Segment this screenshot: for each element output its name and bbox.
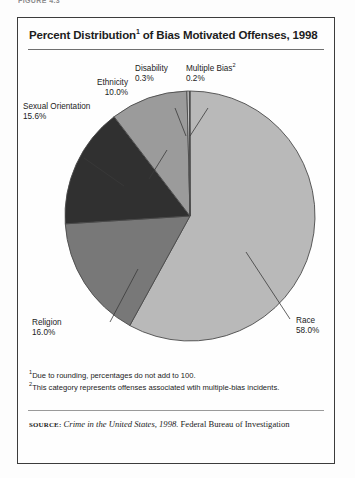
slice-label-sexual-orientation-value: 15.6% [23, 112, 90, 122]
slice-label-ethnicity: Ethnicity 10.0% [20, 78, 128, 98]
figure-source: source: Crime in the United States, 1998… [29, 419, 321, 431]
figure-title-text-a: Percent Distribution [29, 29, 136, 41]
figure-title: Percent Distribution1 of Bias Motivated … [29, 29, 321, 42]
figure-box: Percent Distribution1 of Bias Motivated … [17, 17, 335, 464]
figure-note-2: 2This category represents offenses assoc… [29, 382, 325, 393]
figure-notes: 1Due to rounding, percentages do not add… [29, 370, 325, 395]
slice-label-multiple-bias: Multiple Bias2 0.2% [186, 64, 236, 84]
figure-note-1-text: Due to rounding, percentages do not add … [32, 371, 195, 380]
figure-page: FIGURE 4.3 Percent Distribution1 of Bias… [0, 0, 355, 478]
slice-label-disability-value: 0.3% [135, 74, 168, 84]
source-label: source: [29, 421, 61, 428]
slice-label-sexual-orientation: Sexual Orientation 15.6% [23, 102, 90, 122]
slice-label-disability: Disability 0.3% [135, 64, 168, 84]
slice-label-multiple-bias-footnote-marker: 2 [232, 62, 235, 68]
figure-note-1: 1Due to rounding, percentages do not add… [29, 370, 325, 381]
figure-title-text-b: of Bias Motivated Offenses, 1998 [140, 29, 318, 41]
slice-label-religion-value: 16.0% [32, 328, 62, 338]
slice-label-disability-name: Disability [135, 64, 168, 73]
slice-label-ethnicity-name: Ethnicity [97, 78, 128, 87]
slice-label-multiple-bias-value: 0.2% [186, 74, 236, 84]
source-divider [28, 410, 324, 411]
slice-label-multiple-bias-name: Multiple Bias [186, 64, 232, 73]
slice-label-race-name: Race [296, 316, 315, 325]
slice-label-religion: Religion 16.0% [32, 318, 62, 338]
running-head: FIGURE 4.3 [18, 0, 60, 4]
slice-label-race-value: 58.0% [296, 326, 319, 336]
slice-label-race: Race 58.0% [296, 316, 319, 336]
slice-label-ethnicity-value: 10.0% [20, 88, 128, 98]
source-publisher: Federal Bureau of Investigation [178, 419, 289, 429]
source-title: Crime in the United States, 1998. [64, 419, 179, 429]
slice-label-religion-name: Religion [32, 318, 62, 327]
figure-note-2-text: This category represents offenses associ… [32, 383, 279, 392]
slice-label-sexual-orientation-name: Sexual Orientation [23, 102, 90, 111]
pie-slices [65, 91, 315, 341]
